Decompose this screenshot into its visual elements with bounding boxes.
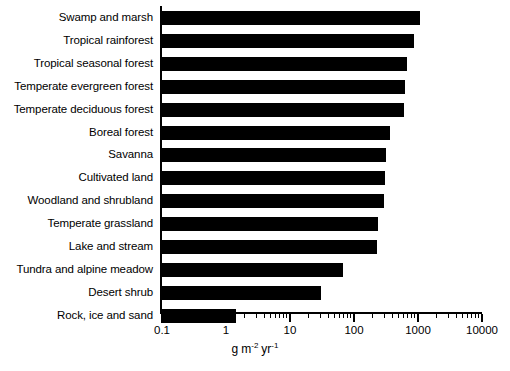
x-tick-minor — [392, 314, 393, 318]
x-tick-major — [417, 314, 419, 322]
x-tick-minor — [467, 314, 468, 318]
category-axis-labels: Swamp and marshTropical rainforestTropic… — [0, 0, 157, 312]
category-label: Desert shrub — [0, 285, 153, 299]
category-label: Woodland and shrubland — [0, 193, 153, 207]
bar — [161, 57, 407, 71]
x-axis-title: gm-2yr-1 — [0, 342, 510, 356]
x-tick-major — [225, 314, 227, 322]
x-tick-minor — [275, 314, 276, 318]
x-tick-major — [289, 314, 291, 322]
x-tick-minor — [211, 314, 212, 318]
category-label: Temperate grassland — [0, 216, 153, 230]
x-tick-minor — [384, 314, 385, 318]
bar — [161, 263, 343, 277]
bar — [161, 240, 377, 254]
x-tick-minor — [339, 314, 340, 318]
x-tick-minor — [471, 314, 472, 318]
y-axis-line — [160, 6, 162, 312]
x-tick-minor — [343, 314, 344, 318]
category-label: Temperate deciduous forest — [0, 102, 153, 116]
x-tick-minor — [414, 314, 415, 318]
category-label: Tundra and alpine meadow — [0, 262, 153, 276]
category-label: Lake and stream — [0, 239, 153, 253]
x-tick-label: 1000 — [405, 323, 431, 337]
x-tick-minor — [192, 314, 193, 318]
bar — [161, 148, 386, 162]
bar — [161, 80, 405, 94]
x-tick-minor — [206, 314, 207, 318]
x-tick-minor — [478, 314, 479, 318]
x-tick-major — [481, 314, 483, 322]
category-label: Rock, ice and sand — [0, 308, 153, 322]
x-tick-minor — [407, 314, 408, 318]
x-axis-line — [160, 312, 482, 314]
x-tick-minor — [448, 314, 449, 318]
bar — [161, 103, 404, 117]
x-tick-minor — [347, 314, 348, 318]
x-tick-minor — [411, 314, 412, 318]
x-tick-minor — [372, 314, 373, 318]
x-tick-minor — [462, 314, 463, 318]
x-tick-minor — [475, 314, 476, 318]
x-tick-minor — [200, 314, 201, 318]
x-tick-minor — [270, 314, 271, 318]
x-tick-label: 0.1 — [154, 323, 170, 337]
category-label: Temperate evergreen forest — [0, 79, 153, 93]
x-tick-label: 1 — [223, 323, 229, 337]
productivity-bar-chart: Swamp and marshTropical rainforestTropic… — [0, 0, 510, 371]
category-label: Savanna — [0, 147, 153, 161]
bar — [161, 171, 385, 185]
bar — [161, 217, 378, 231]
x-tick-minor — [350, 314, 351, 318]
x-tick-major — [161, 314, 163, 322]
bar — [161, 286, 321, 300]
x-tick-minor — [264, 314, 265, 318]
x-tick-minor — [256, 314, 257, 318]
bar — [161, 11, 420, 25]
x-tick-minor — [456, 314, 457, 318]
bar — [161, 126, 390, 140]
x-axis-title-m-exponent: -2 — [251, 341, 258, 350]
x-tick-minor — [328, 314, 329, 318]
x-tick-minor — [219, 314, 220, 318]
category-label: Tropical seasonal forest — [0, 56, 153, 70]
bar — [161, 34, 414, 48]
x-tick-minor — [283, 314, 284, 318]
x-tick-label: 10 — [284, 323, 297, 337]
category-label: Boreal forest — [0, 125, 153, 139]
x-tick-major — [353, 314, 355, 322]
category-label: Tropical rainforest — [0, 33, 153, 47]
x-tick-minor — [279, 314, 280, 318]
x-tick-label: 10000 — [466, 323, 498, 337]
x-tick-minor — [334, 314, 335, 318]
x-tick-minor — [222, 314, 223, 318]
x-tick-minor — [244, 314, 245, 318]
x-tick-minor — [436, 314, 437, 318]
category-label: Cultivated land — [0, 170, 153, 184]
x-tick-minor — [215, 314, 216, 318]
x-tick-minor — [320, 314, 321, 318]
x-tick-minor — [403, 314, 404, 318]
x-axis-title-g: g — [232, 342, 239, 356]
x-tick-minor — [398, 314, 399, 318]
x-axis-title-yr: yr — [261, 342, 271, 356]
x-tick-minor — [286, 314, 287, 318]
category-label: Swamp and marsh — [0, 10, 153, 24]
x-axis-title-m: m — [241, 342, 251, 356]
x-tick-label: 100 — [344, 323, 363, 337]
x-tick-minor — [308, 314, 309, 318]
x-tick-minor — [180, 314, 181, 318]
x-axis-title-yr-exponent: -1 — [271, 341, 278, 350]
bar — [161, 194, 384, 208]
plot-area — [161, 6, 481, 312]
